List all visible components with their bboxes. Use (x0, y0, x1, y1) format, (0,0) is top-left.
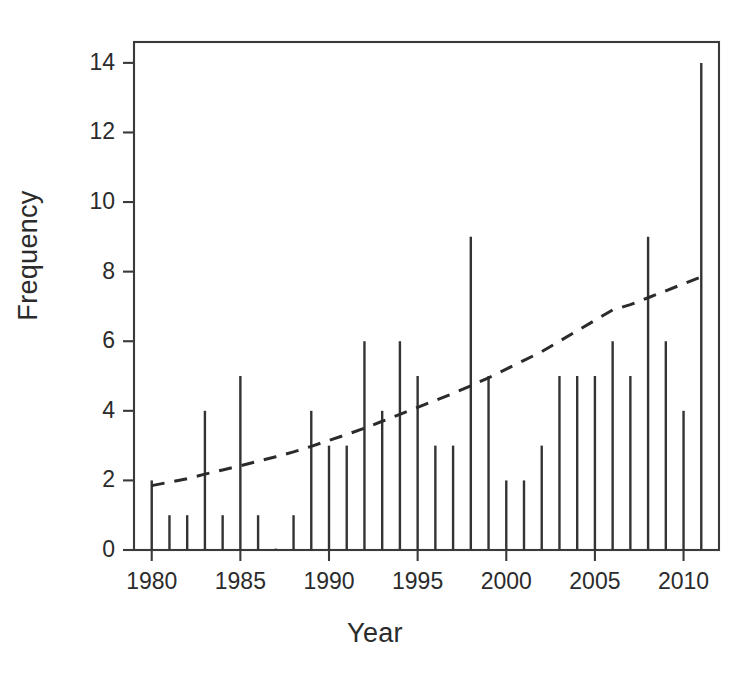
x-tick-marks (152, 550, 684, 561)
x-axis-title: Year (0, 618, 750, 649)
y-tick-marks (123, 63, 134, 550)
bar-series (152, 63, 702, 550)
plot-area (0, 0, 750, 686)
trend-dashed-line (152, 277, 702, 486)
chart-figure: 02468101214 1980198519901995200020052010… (0, 0, 750, 686)
trend-line (152, 277, 702, 486)
y-axis-title: Frequency (13, 166, 44, 346)
